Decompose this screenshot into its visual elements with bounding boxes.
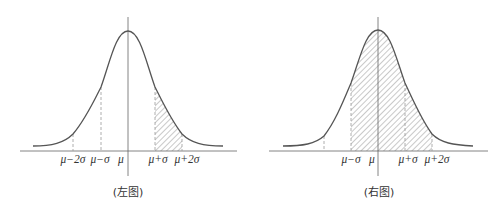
tick-mu-plus-2sigma: μ+2σ	[425, 153, 450, 165]
tick-mu-plus-sigma: μ+σ	[398, 153, 417, 165]
shaded-area-left	[155, 87, 182, 151]
tick-mu-minus-2sigma: μ−2σ	[61, 153, 86, 165]
tick-mu-plus-2sigma: μ+2σ	[175, 153, 200, 165]
tick-mu: μ	[369, 153, 375, 165]
tick-mu-plus-sigma: μ+σ	[148, 153, 167, 165]
normal-curve-left-figure: μ−2σ μ−σ μ μ+σ μ+2σ (左图)	[0, 0, 251, 208]
normal-curve-left-svg	[0, 0, 251, 208]
normal-curve-right-figure: μ−σ μ μ+σ μ+2σ (右图)	[251, 0, 502, 208]
caption-left: (左图)	[113, 183, 144, 199]
normal-curve-right-svg	[251, 0, 502, 208]
tick-mu: μ	[118, 153, 124, 165]
caption-right: (右图)	[364, 183, 395, 199]
tick-mu-minus-sigma: μ−σ	[90, 153, 109, 165]
tick-mu-minus-sigma: μ−σ	[341, 153, 360, 165]
